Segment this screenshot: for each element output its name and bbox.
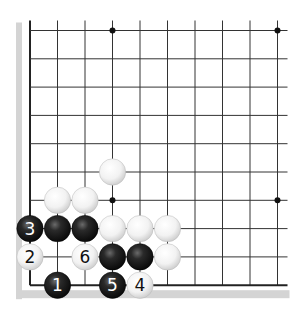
white-stone [99,215,125,241]
white-stone: 4 [127,272,153,298]
move-number-label: 5 [107,275,118,295]
board-grid [30,21,288,286]
move-number-label: 4 [135,275,146,295]
star-point [110,197,116,203]
black-stone [127,244,153,270]
white-stone [99,159,125,185]
white-stone [154,215,180,241]
white-stone [72,187,98,213]
black-stone: 5 [99,272,125,298]
white-stone [44,187,70,213]
black-stone [99,244,125,270]
move-number-label: 2 [25,247,36,267]
black-stone [72,215,98,241]
go-board: 326154 [0,0,302,311]
white-stone [154,244,180,270]
star-point [275,28,281,34]
move-number-label: 6 [80,247,91,267]
star-point [110,28,116,34]
white-stone: 2 [17,244,43,270]
move-number-label: 1 [52,275,63,295]
black-stone: 1 [44,272,70,298]
white-stone [127,215,153,241]
black-stone: 3 [17,215,43,241]
white-stone: 6 [72,244,98,270]
move-number-label: 3 [25,219,36,239]
black-stone [44,215,70,241]
star-point [275,197,281,203]
